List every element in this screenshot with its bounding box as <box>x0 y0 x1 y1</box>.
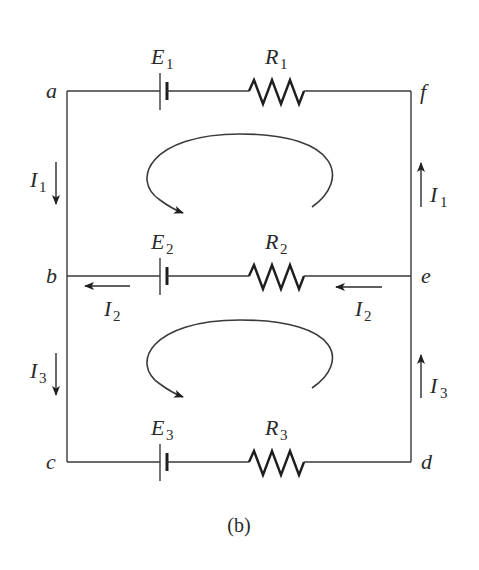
svg-text:1: 1 <box>280 56 288 72</box>
node-label-a: a <box>46 78 57 103</box>
svg-text:1: 1 <box>440 194 448 210</box>
node-label-c: c <box>46 449 56 474</box>
node-label-d: d <box>421 449 433 474</box>
svg-text:R: R <box>264 415 279 440</box>
svg-text:R: R <box>264 229 279 254</box>
label-r1: R 1 <box>264 44 288 72</box>
branch-middle <box>67 258 411 295</box>
label-e1: E 1 <box>150 44 174 72</box>
svg-text:2: 2 <box>280 241 288 257</box>
label-i1-right: I 1 <box>429 182 448 210</box>
label-e3: E 3 <box>150 415 174 443</box>
label-i3-left: I 3 <box>29 358 47 386</box>
label-r3: R 3 <box>264 415 288 443</box>
svg-text:I: I <box>429 182 439 207</box>
svg-text:E: E <box>150 415 165 440</box>
node-label-e: e <box>421 263 431 288</box>
node-label-f: f <box>420 79 429 104</box>
svg-text:I: I <box>354 296 364 321</box>
svg-text:1: 1 <box>166 56 174 72</box>
label-i2-left: I 2 <box>103 296 121 324</box>
svg-text:2: 2 <box>166 241 174 257</box>
branch-top <box>67 73 411 110</box>
svg-text:I: I <box>29 167 39 192</box>
label-r2: R 2 <box>264 229 288 257</box>
label-i1-left: I 1 <box>29 167 47 195</box>
svg-text:R: R <box>264 44 279 69</box>
svg-text:I: I <box>429 373 439 398</box>
label-i2-right: I 2 <box>354 296 372 324</box>
svg-text:I: I <box>29 358 39 383</box>
upper-loop-arrow-icon <box>147 134 332 213</box>
svg-text:3: 3 <box>166 427 174 443</box>
svg-text:3: 3 <box>440 385 448 401</box>
resistor-r1 <box>249 80 304 104</box>
svg-text:1: 1 <box>39 179 47 195</box>
svg-text:E: E <box>150 229 165 254</box>
node-label-b: b <box>46 263 57 288</box>
label-i3-right: I 3 <box>429 373 448 401</box>
resistor-r2 <box>249 265 304 289</box>
label-e2: E 2 <box>150 229 174 257</box>
branch-bottom <box>67 444 411 481</box>
svg-text:I: I <box>103 296 113 321</box>
figure-caption: (b) <box>227 514 250 537</box>
svg-text:2: 2 <box>113 308 121 324</box>
circuit-diagram: a b c f e d E 1 R 1 E 2 R 2 E 3 R 3 I 1 … <box>0 0 479 570</box>
svg-text:3: 3 <box>280 427 288 443</box>
svg-text:2: 2 <box>364 308 372 324</box>
lower-loop-arrow-icon <box>147 320 332 397</box>
svg-text:E: E <box>150 44 165 69</box>
resistor-r3 <box>249 451 304 475</box>
svg-text:3: 3 <box>39 370 47 386</box>
